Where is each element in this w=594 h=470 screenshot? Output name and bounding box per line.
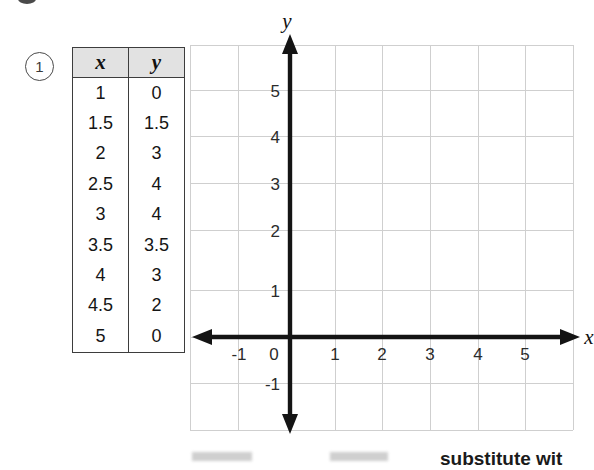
coordinate-grid: y x 5 4 3 2 1 -1 -1 0 1 2 3 4 5	[190, 10, 594, 435]
table-row: 2.5 4	[73, 169, 185, 199]
cell-y: 1.5	[129, 108, 185, 138]
y-tick-5: 5	[271, 82, 280, 101]
bottom-cutoff-strip: substitute wit	[0, 448, 594, 470]
cell-y: 2	[129, 291, 185, 321]
table-row: 1 0	[73, 78, 185, 109]
x-axis-arrow-right	[560, 329, 580, 345]
cell-x: 2	[73, 139, 129, 169]
cell-y: 3	[129, 260, 185, 290]
cell-y: 4	[129, 200, 185, 230]
y-tick-3: 3	[271, 175, 280, 194]
y-tick-2: 2	[271, 222, 280, 241]
cell-x: 3.5	[73, 230, 129, 260]
table-row: 3 4	[73, 200, 185, 230]
blurred-text-block	[330, 452, 388, 461]
x-tick-1: 1	[330, 345, 339, 364]
table-header-row: x y	[73, 48, 185, 78]
cell-x: 3	[73, 200, 129, 230]
cell-y: 3	[129, 139, 185, 169]
table-row: 2 3	[73, 139, 185, 169]
partial-instruction-text: substitute wit	[440, 448, 562, 470]
y-tick-1: 1	[271, 282, 280, 301]
table-row: 4.5 2	[73, 291, 185, 321]
table-row: 1.5 1.5	[73, 108, 185, 138]
cell-x: 1	[73, 78, 129, 109]
grid-lines	[190, 45, 573, 430]
x-axis-arrow-left	[192, 329, 212, 345]
x-tick-neg1: -1	[231, 345, 246, 364]
x-axis-label: x	[583, 325, 594, 349]
cell-x: 4	[73, 260, 129, 290]
cell-y: 0	[129, 78, 185, 109]
cell-x: 2.5	[73, 169, 129, 199]
x-tick-2: 2	[377, 345, 386, 364]
y-axis-arrow-down	[282, 414, 298, 434]
cell-y: 0	[129, 321, 185, 352]
cell-x: 5	[73, 321, 129, 352]
cell-y: 3.5	[129, 230, 185, 260]
cell-x: 4.5	[73, 291, 129, 321]
item-number-label: 1	[35, 59, 43, 74]
xy-data-table: x y 1 0 1.5 1.5 2 3 2.5 4 3 4	[72, 47, 182, 353]
top-cutoff-artifact	[18, 0, 36, 4]
x-tick-5: 5	[520, 345, 529, 364]
item-number-badge: 1	[25, 52, 54, 81]
table-header-y: y	[129, 48, 185, 78]
x-tick-3: 3	[425, 345, 434, 364]
x-tick-0: 0	[269, 345, 278, 364]
table-header-x: x	[73, 48, 129, 78]
y-tick-4: 4	[271, 128, 280, 147]
table-row: 4 3	[73, 260, 185, 290]
x-tick-4: 4	[473, 345, 482, 364]
y-axis-arrow-up	[282, 34, 298, 54]
y-axis-label: y	[280, 10, 292, 33]
blurred-text-block	[192, 452, 252, 461]
cell-x: 1.5	[73, 108, 129, 138]
cell-y: 4	[129, 169, 185, 199]
table-row: 5 0	[73, 321, 185, 352]
table-row: 3.5 3.5	[73, 230, 185, 260]
y-tick-neg1: -1	[265, 375, 280, 394]
